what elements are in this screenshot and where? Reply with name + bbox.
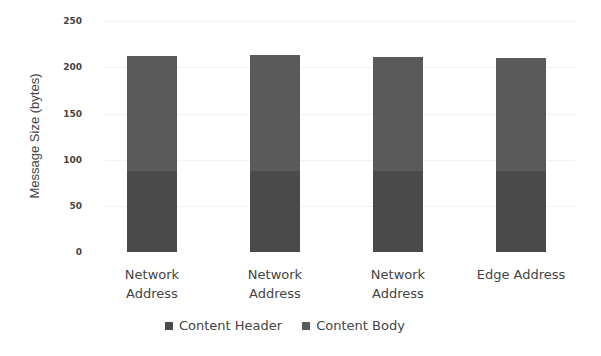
- legend-item-content-header: Content Header: [165, 318, 282, 333]
- x-label-3: Network Address: [338, 265, 458, 303]
- stacked-bar-chart: Message Size (bytes) 0 50 100 150 200 25…: [0, 0, 601, 356]
- x-label-2: Network Address: [215, 265, 335, 303]
- bar-segment-content-header: [250, 171, 300, 252]
- bar-segment-content-body: [496, 58, 546, 171]
- legend-label-header: Content Header: [179, 318, 282, 333]
- legend-label-body: Content Body: [316, 318, 405, 333]
- x-label-4: Edge Address: [461, 265, 581, 284]
- legend: Content Header Content Body: [165, 318, 425, 333]
- y-tick-0: 0: [58, 247, 82, 257]
- y-axis-label: Message Size (bytes): [27, 74, 42, 199]
- bar-segment-content-body: [127, 56, 177, 171]
- legend-item-content-body: Content Body: [302, 318, 405, 333]
- legend-swatch-body: [302, 322, 310, 330]
- bar-1: [127, 56, 177, 252]
- bar-segment-content-header: [496, 171, 546, 252]
- bar-segment-content-header: [127, 171, 177, 252]
- y-tick-50: 50: [58, 201, 82, 211]
- y-tick-200: 200: [58, 62, 82, 72]
- x-label-1: Network Address: [92, 265, 212, 303]
- bar-segment-content-body: [250, 55, 300, 171]
- gridline: [105, 21, 575, 22]
- bar-4: [496, 58, 546, 252]
- bar-2: [250, 55, 300, 252]
- y-tick-250: 250: [58, 16, 82, 26]
- bar-segment-content-body: [373, 57, 423, 171]
- y-tick-100: 100: [58, 155, 82, 165]
- y-tick-150: 150: [58, 109, 82, 119]
- legend-swatch-header: [165, 322, 173, 330]
- bar-3: [373, 57, 423, 252]
- bar-segment-content-header: [373, 171, 423, 252]
